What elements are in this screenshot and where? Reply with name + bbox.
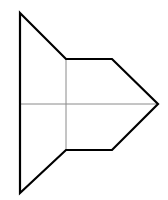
figure-outline <box>20 13 158 193</box>
geometric-figure <box>0 0 168 200</box>
